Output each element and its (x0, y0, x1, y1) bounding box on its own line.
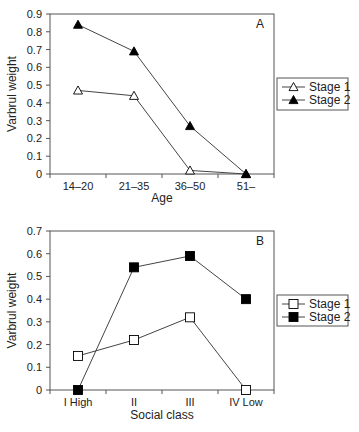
series-line (78, 256, 246, 390)
y-tick-label: 0.2 (27, 132, 42, 144)
x-tick-label: 21–35 (119, 180, 150, 192)
y-tick-label: 0.4 (27, 97, 42, 109)
x-tick-label: 14–20 (63, 180, 94, 192)
series-stage-2 (74, 20, 251, 177)
series-line (78, 317, 246, 390)
y-axis-title: Varbrul weight (5, 55, 19, 131)
y-tick-label: 0.1 (27, 150, 42, 162)
chart-panel-a: 00.10.20.30.40.50.60.70.80.914–2021–3536… (5, 8, 351, 205)
x-tick-label: II (131, 396, 137, 408)
y-tick-label: 0.3 (27, 115, 42, 127)
data-point-marker (74, 86, 83, 94)
data-point-marker (74, 386, 83, 395)
y-tick-label: 0.3 (27, 316, 42, 328)
data-point-marker (74, 20, 83, 28)
data-point-marker (186, 122, 195, 130)
y-tick-label: 0.1 (27, 361, 42, 373)
legend-label: Stage 1 (309, 297, 351, 311)
y-tick-label: 0.5 (27, 79, 42, 91)
legend-label: Stage 1 (309, 80, 351, 94)
legend-marker-icon (289, 300, 298, 309)
x-tick-label: 51– (237, 180, 256, 192)
y-tick-label: 0.9 (27, 8, 42, 20)
chart-panel-b: 00.10.20.30.40.50.60.7I HighIIIIIIV LowS… (5, 225, 351, 422)
x-tick-label: III (185, 396, 194, 408)
legend: Stage 1Stage 2 (277, 295, 351, 326)
legend-label: Stage 2 (309, 93, 351, 107)
y-tick-label: 0.7 (27, 225, 42, 237)
y-tick-label: 0.6 (27, 61, 42, 73)
data-point-marker (130, 336, 139, 345)
data-point-marker (186, 251, 195, 260)
legend: Stage 1Stage 2 (277, 78, 351, 110)
y-tick-label: 0.4 (27, 293, 42, 305)
y-tick-label: 0.8 (27, 26, 42, 38)
panel-label: B (256, 234, 264, 248)
data-point-marker (74, 351, 83, 360)
y-tick-label: 0 (36, 168, 42, 180)
data-point-marker (130, 47, 139, 55)
series-stage-2 (74, 251, 251, 394)
series-stage-1 (74, 86, 251, 178)
x-tick-label: I High (64, 396, 93, 408)
data-point-marker (242, 295, 251, 304)
legend-label: Stage 2 (309, 310, 351, 324)
series-line (78, 25, 246, 174)
y-tick-label: 0.6 (27, 248, 42, 260)
x-axis-title: Age (151, 191, 173, 205)
x-axis-title: Social class (130, 408, 193, 422)
panel-label: A (256, 17, 264, 31)
data-point-marker (186, 166, 195, 174)
x-tick-label: IV Low (229, 396, 263, 408)
x-tick-label: 36–50 (175, 180, 206, 192)
data-point-marker (130, 263, 139, 272)
y-tick-label: 0.2 (27, 339, 42, 351)
y-axis-title: Varbrul weight (5, 272, 19, 348)
figure: 00.10.20.30.40.50.60.70.80.914–2021–3536… (0, 0, 359, 432)
data-point-marker (186, 313, 195, 322)
y-tick-label: 0.7 (27, 44, 42, 56)
series-stage-1 (74, 313, 251, 395)
legend-marker-icon (289, 313, 298, 322)
y-tick-label: 0 (36, 384, 42, 396)
series-line (78, 90, 246, 174)
plot-frame (50, 14, 274, 174)
y-tick-label: 0.5 (27, 270, 42, 282)
plot-frame (50, 231, 274, 390)
data-point-marker (242, 386, 251, 395)
